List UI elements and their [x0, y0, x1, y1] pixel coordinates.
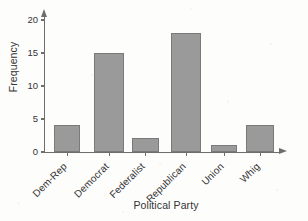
y-tick-mark [41, 118, 45, 119]
bar-chart: Frequency 0 5 10 15 20 Dem-Rep Democrat … [0, 0, 308, 221]
x-axis-title: Political Party [108, 199, 224, 211]
x-tick-mark [260, 153, 261, 157]
y-tick-label: 10 [12, 81, 38, 91]
y-tick-label: 5 [12, 114, 38, 124]
x-tick-mark [224, 153, 225, 157]
bar-federalist[interactable] [132, 138, 159, 151]
x-tick-mark [186, 153, 187, 157]
y-tick-label: 20 [12, 15, 38, 25]
y-axis-arrowhead-icon [41, 9, 47, 17]
bar-republican[interactable] [171, 33, 201, 152]
x-axis-arrowhead-icon [279, 148, 287, 154]
x-tick-mark [145, 153, 146, 157]
y-tick-mark [41, 19, 45, 20]
x-axis-line [44, 152, 281, 153]
y-tick-label: 0 [12, 147, 38, 157]
y-tick-mark [41, 151, 45, 152]
y-tick-mark [41, 52, 45, 53]
bar-dem-rep[interactable] [54, 125, 80, 151]
x-tick-mark [109, 153, 110, 157]
y-tick-mark [41, 85, 45, 86]
x-tick-mark [67, 153, 68, 157]
y-tick-label: 15 [12, 48, 38, 58]
y-axis-title: Frequency [6, 27, 20, 107]
bar-whig[interactable] [246, 125, 274, 151]
bar-union[interactable] [211, 145, 237, 152]
bar-democrat[interactable] [94, 53, 124, 152]
